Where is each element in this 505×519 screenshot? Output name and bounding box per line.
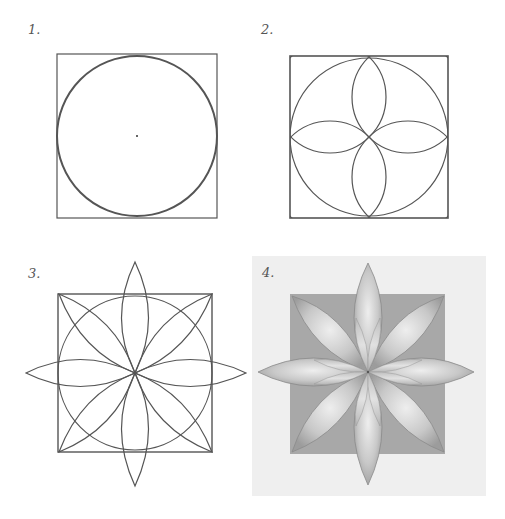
panel-1-square-with-circle [57,54,217,218]
construction-diagram [0,0,505,519]
panel-2-quarter-arcs [274,41,464,233]
panel-4-shaded-flower [252,256,486,496]
panel-3-rosette [26,262,246,486]
panel-4-label: 4. [262,265,274,280]
